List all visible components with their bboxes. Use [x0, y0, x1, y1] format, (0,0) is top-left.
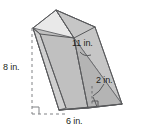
- dimension-label-altitude: 2 in.: [96, 75, 113, 85]
- triangular-prism-figure: 11 in. 8 in. 2 in. 6 in.: [0, 0, 141, 130]
- dimension-label-height: 8 in.: [3, 62, 20, 72]
- dimension-label-base: 6 in.: [66, 116, 83, 126]
- right-angle-marker-height: [32, 107, 39, 114]
- prism-illustration: [0, 0, 141, 130]
- dimension-label-length: 11 in.: [72, 38, 93, 48]
